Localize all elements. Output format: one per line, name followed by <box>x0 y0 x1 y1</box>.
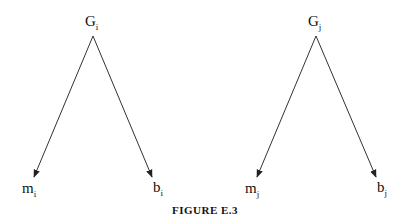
edge-gi-bi <box>93 36 152 177</box>
node-g-i: Gi <box>85 14 98 32</box>
edge-gj-mj <box>257 36 316 177</box>
figure-caption: FIGURE E.3 <box>0 204 410 216</box>
edge-gj-bj <box>316 36 376 177</box>
node-m-j: mj <box>245 181 259 199</box>
node-b-j: bj <box>377 180 387 198</box>
diagram-edges <box>0 0 410 224</box>
node-b-i: bi <box>153 180 163 198</box>
node-m-i: mi <box>22 181 36 199</box>
node-g-j: Gj <box>308 14 321 32</box>
edge-gi-mi <box>34 36 93 177</box>
